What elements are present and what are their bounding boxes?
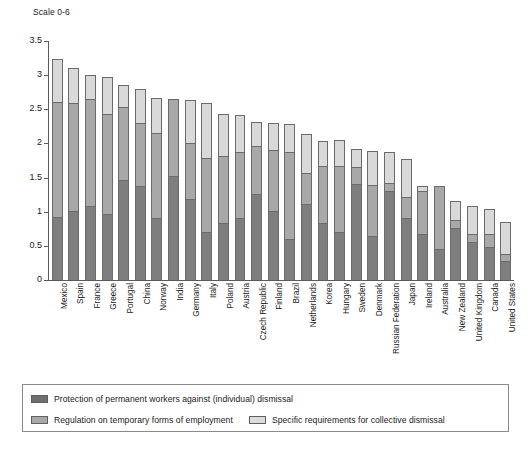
bar-sweden xyxy=(351,149,362,280)
bar-segment-series-2 xyxy=(218,114,229,156)
bar-segment-series-1 xyxy=(151,133,162,218)
bar-segment-series-0 xyxy=(118,180,129,280)
bar-segment-series-0 xyxy=(52,217,63,281)
bar-hungary xyxy=(334,140,345,280)
bar-india xyxy=(168,99,179,280)
bar-segment-series-1 xyxy=(334,166,345,232)
y-tick-label: 2.5 xyxy=(29,103,42,113)
bar-new-zealand xyxy=(450,201,461,280)
bar-segment-series-2 xyxy=(450,201,461,220)
x-label-denmark: Denmark xyxy=(376,283,384,316)
x-label-korea: Korea xyxy=(326,283,334,305)
bar-australia xyxy=(434,186,445,280)
bar-france xyxy=(85,75,96,280)
y-tick-mark xyxy=(44,143,48,144)
x-label-ireland: Ireland xyxy=(426,283,434,308)
bar-segment-series-1 xyxy=(367,185,378,236)
bar-segment-series-2 xyxy=(401,159,412,197)
bar-segment-series-2 xyxy=(185,100,196,143)
bar-segment-series-0 xyxy=(151,218,162,280)
bar-segment-series-2 xyxy=(251,122,262,145)
bar-italy xyxy=(201,103,212,280)
y-tick-label: 1 xyxy=(37,206,42,216)
bar-united-kingdom xyxy=(467,206,478,280)
bar-segment-series-0 xyxy=(318,223,329,280)
y-tick-mark xyxy=(44,246,48,247)
y-tick-mark xyxy=(44,109,48,110)
bar-segment-series-2 xyxy=(268,123,279,150)
bar-segment-series-1 xyxy=(401,197,412,217)
x-label-russian-federation: Russian Federation xyxy=(393,283,401,354)
bar-segment-series-1 xyxy=(284,152,295,239)
chart-figure: Scale 0-6 00.511.522.533.5 MexicoSpainFr… xyxy=(0,0,531,450)
bar-segment-series-2 xyxy=(68,68,79,104)
bar-segment-series-0 xyxy=(417,234,428,280)
bar-segment-series-2 xyxy=(484,209,495,234)
bar-canada xyxy=(484,209,495,280)
x-axis-category-labels: MexicoSpainFranceGreecePortugalChinaNorw… xyxy=(49,283,514,378)
bar-japan xyxy=(401,159,412,280)
bar-segment-series-1 xyxy=(467,234,478,242)
bar-denmark xyxy=(367,151,378,280)
bar-segment-series-1 xyxy=(68,103,79,211)
x-label-hungary: Hungary xyxy=(343,283,351,314)
y-tick-label: 3.5 xyxy=(29,35,42,45)
y-tick-mark xyxy=(44,75,48,76)
bar-segment-series-0 xyxy=(218,223,229,280)
bar-netherlands xyxy=(301,134,312,280)
x-label-australia: Australia xyxy=(442,283,450,315)
x-label-italy: Italy xyxy=(210,283,218,298)
legend-label-permanent: Protection of permanent workers against … xyxy=(54,394,293,404)
bar-segment-series-0 xyxy=(450,228,461,280)
bar-segment-series-1 xyxy=(118,107,129,179)
x-axis-line xyxy=(48,280,514,281)
legend-label-collective: Specific requirements for collective dis… xyxy=(272,415,445,425)
y-tick-label: 0.5 xyxy=(29,240,42,250)
legend-item-collective-dismissal: Specific requirements for collective dis… xyxy=(249,415,445,425)
y-tick-mark xyxy=(44,41,48,42)
bar-segment-series-0 xyxy=(201,232,212,280)
x-label-greece: Greece xyxy=(110,283,118,310)
bar-segment-series-2 xyxy=(301,134,312,173)
bar-segment-series-1 xyxy=(218,156,229,222)
bar-segment-series-1 xyxy=(85,99,96,206)
x-label-china: China xyxy=(144,283,152,304)
legend-item-temporary-forms: Regulation on temporary forms of employm… xyxy=(31,415,233,425)
bar-segment-series-2 xyxy=(235,115,246,151)
bar-segment-series-0 xyxy=(367,236,378,280)
bar-segment-series-1 xyxy=(318,166,329,223)
x-label-new-zealand: New Zealand xyxy=(459,283,467,331)
bar-china xyxy=(135,89,146,280)
bar-segment-series-2 xyxy=(135,89,146,123)
legend-swatch-icon-permanent xyxy=(31,395,48,403)
bar-segment-series-1 xyxy=(434,186,445,250)
bar-segment-series-1 xyxy=(417,191,428,235)
x-label-united-kingdom: United Kingdom xyxy=(476,283,484,341)
bar-segment-series-0 xyxy=(434,249,445,280)
bar-segment-series-2 xyxy=(102,77,113,114)
bar-segment-series-1 xyxy=(484,234,495,246)
bars-layer xyxy=(49,41,514,280)
bar-segment-series-0 xyxy=(500,261,511,280)
bar-segment-series-1 xyxy=(251,146,262,194)
legend-item-permanent-workers: Protection of permanent workers against … xyxy=(31,394,293,404)
bar-segment-series-0 xyxy=(85,206,96,280)
bar-greece xyxy=(102,77,113,280)
bar-segment-series-0 xyxy=(135,186,146,280)
bar-segment-series-0 xyxy=(401,218,412,280)
y-tick-mark xyxy=(44,280,48,281)
bar-segment-series-2 xyxy=(318,141,329,166)
bar-segment-series-2 xyxy=(151,98,162,132)
y-tick-label: 0 xyxy=(37,274,42,284)
legend-swatch-icon-collective xyxy=(249,416,266,424)
x-label-poland: Poland xyxy=(227,283,235,309)
bar-segment-series-2 xyxy=(384,152,395,183)
y-tick-mark xyxy=(44,178,48,179)
y-tick-mark xyxy=(44,212,48,213)
bar-segment-series-0 xyxy=(467,242,478,280)
bar-united-states xyxy=(500,222,511,280)
bar-segment-series-1 xyxy=(235,152,246,218)
bar-segment-series-1 xyxy=(301,173,312,204)
x-label-czech-republic: Czech Republic xyxy=(260,283,268,340)
x-label-germany: Germany xyxy=(193,283,201,317)
